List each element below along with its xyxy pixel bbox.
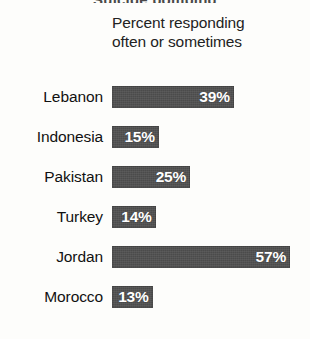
- bar-row: Morocco 13%: [0, 286, 310, 308]
- column-heading-line-2: often or sometimes: [112, 33, 308, 52]
- category-label: Pakistan: [0, 167, 103, 187]
- bar-value-label: 14%: [121, 208, 155, 226]
- bar-track: 14%: [112, 206, 310, 228]
- bar-fill: 39%: [112, 86, 234, 108]
- category-label: Jordan: [0, 247, 103, 267]
- bar-fill: 13%: [112, 286, 153, 308]
- bar-row: Indonesia 15%: [0, 126, 310, 148]
- bar-track: 13%: [112, 286, 310, 308]
- bar-track: 57%: [112, 246, 310, 268]
- bar-fill: 57%: [112, 246, 290, 268]
- bar-fill: 15%: [112, 126, 159, 148]
- bar-value-label: 57%: [256, 248, 290, 266]
- bar-value-label: 13%: [118, 288, 152, 306]
- bar-value-label: 25%: [156, 168, 190, 186]
- column-heading: Percent responding often or sometimes: [112, 14, 308, 51]
- bar-track: 25%: [112, 166, 310, 188]
- column-heading-line-1: Percent responding: [112, 14, 308, 33]
- category-label: Indonesia: [0, 127, 103, 147]
- bar-rows: Lebanon 39% Indonesia 15% Pakistan 25%: [0, 86, 310, 326]
- bar-value-label: 39%: [199, 88, 233, 106]
- category-label: Lebanon: [0, 87, 103, 107]
- category-label: Morocco: [0, 287, 103, 307]
- bar-row: Jordan 57%: [0, 246, 310, 268]
- bar-fill: 25%: [112, 166, 190, 188]
- category-label: Turkey: [0, 207, 103, 227]
- bar-row: Lebanon 39%: [0, 86, 310, 108]
- bar-row: Turkey 14%: [0, 206, 310, 228]
- bar-row: Pakistan 25%: [0, 166, 310, 188]
- bar-track: 39%: [112, 86, 310, 108]
- bar-chart-figure: Suicide bombing Percent responding often…: [0, 0, 310, 339]
- bar-track: 15%: [112, 126, 310, 148]
- bar-value-label: 15%: [124, 128, 158, 146]
- clipped-headline: Suicide bombing: [0, 0, 310, 3]
- bar-fill: 14%: [112, 206, 156, 228]
